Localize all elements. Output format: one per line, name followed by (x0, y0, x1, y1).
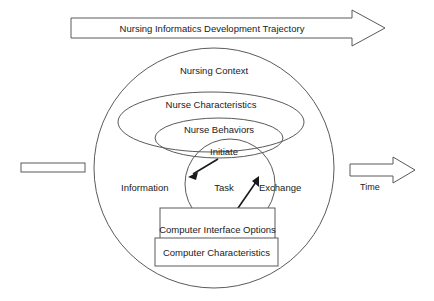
task-label: Task (214, 182, 234, 193)
exchange-label: Exchange (259, 182, 301, 193)
computer-characteristics-label: Computer Characteristics (163, 247, 270, 258)
computer-interface-options-label: Computer Interface Options (159, 224, 276, 235)
nurse-behaviors-label: Nurse Behaviors (184, 124, 254, 135)
nurse-characteristics-label: Nurse Characteristics (166, 99, 257, 110)
diagram-canvas: Nursing Informatics Development Trajecto… (0, 0, 434, 301)
time-label: Time (360, 182, 380, 192)
time-arrow (350, 157, 415, 183)
initiate-arrow-line (193, 159, 218, 174)
left-bar-marker (21, 163, 85, 172)
nursing-context-label: Nursing Context (180, 65, 248, 76)
information-label: Information (121, 182, 169, 193)
nursing-informatics-diagram: Nursing Informatics Development Trajecto… (0, 0, 434, 301)
trajectory-banner-label: Nursing Informatics Development Trajecto… (120, 23, 305, 34)
initiate-label: Initiate (210, 146, 238, 157)
